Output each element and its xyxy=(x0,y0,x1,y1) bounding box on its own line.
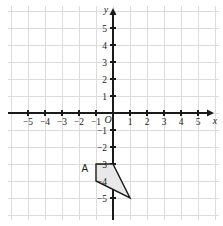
y-tick-label: −1 xyxy=(97,126,107,136)
x-tick-label: 5 xyxy=(196,117,201,127)
x-tick-label: 4 xyxy=(179,117,184,127)
y-tick-label: 3 xyxy=(102,58,107,68)
coordinate-plane-svg: A −5−4−3−2−11234554321−1−2−3−4−5 x y O xyxy=(0,0,223,226)
x-tick-label: −2 xyxy=(74,117,84,127)
y-tick-label: 5 xyxy=(102,24,107,34)
y-tick-label: 1 xyxy=(102,92,107,102)
y-tick-label: −3 xyxy=(97,160,107,170)
origin-label: O xyxy=(104,114,111,125)
y-tick-label: −4 xyxy=(97,177,107,187)
x-tick-label: −4 xyxy=(40,117,50,127)
x-tick-label: −5 xyxy=(23,117,33,127)
shape-label-a: A xyxy=(82,163,89,174)
x-tick-label: −3 xyxy=(57,117,67,127)
y-tick-label: 2 xyxy=(102,75,107,85)
x-axis-label: x xyxy=(212,115,218,126)
x-tick-label: 3 xyxy=(162,117,167,127)
x-tick-label: 2 xyxy=(145,117,150,127)
x-tick-label: 1 xyxy=(128,117,133,127)
y-tick-label: −2 xyxy=(97,143,107,153)
y-axis-label: y xyxy=(103,4,109,15)
y-tick-label: 4 xyxy=(102,41,107,51)
y-tick-label: −5 xyxy=(97,194,107,204)
coordinate-plane-figure: A −5−4−3−2−11234554321−1−2−3−4−5 x y O xyxy=(0,0,223,226)
